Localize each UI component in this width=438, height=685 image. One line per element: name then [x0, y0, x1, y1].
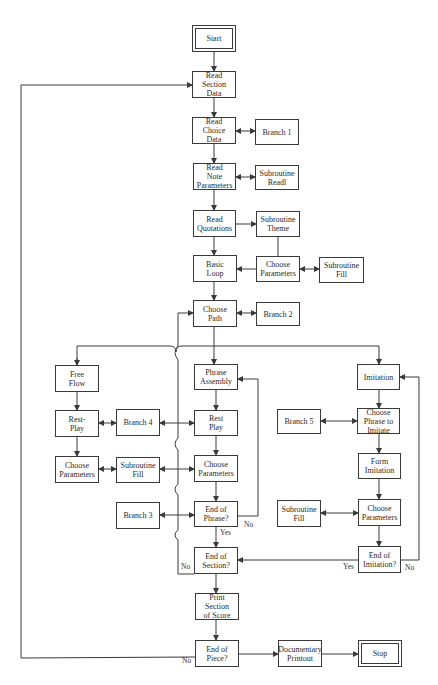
subroutine-fill-right-node: Subroutine Fill	[277, 500, 321, 527]
print-section-of-score-node: Print Section of Score	[195, 593, 239, 620]
end-of-phrase-no-label: No	[244, 521, 253, 529]
choose-parameters-top-node: Choose Parameters	[256, 256, 300, 282]
rest-play-center-node: Rest Play	[194, 410, 238, 436]
flowchart: Start Read Section Data Read Choice Data…	[0, 0, 438, 685]
end-of-section-no-label: No	[181, 563, 190, 571]
subroutine-theme-node: Subroutine Theme	[256, 211, 300, 237]
subroutine-readl-node: Subroutine Readl	[255, 165, 299, 190]
read-choice-data-node: Read Choice Data	[192, 117, 236, 144]
end-of-phrase-yes-label: Yes	[220, 529, 231, 537]
branch-1-node: Branch 1	[255, 119, 299, 145]
start-node: Start	[192, 25, 236, 52]
read-note-parameters-node: Read Note Parameters	[193, 163, 236, 190]
free-flow-node: Free Flow	[55, 365, 99, 392]
phrase-assembly-node: Phrase Assembly	[194, 364, 238, 390]
branch-4-node: Branch 4	[116, 409, 160, 436]
choose-phrase-to-imitate-node: Choose Phrase to Imitate	[357, 408, 400, 434]
end-of-imitation-no-label: No	[405, 564, 414, 572]
choose-path-node: Choose Path	[193, 300, 237, 327]
end-of-imitation-yes-label: Yes	[343, 563, 354, 571]
end-of-piece-node: End of Piece?	[195, 640, 239, 667]
subroutine-fill-left-node: Subroutine Fill	[116, 457, 160, 483]
form-imitation-node: Form Imitation	[358, 453, 401, 479]
branch-2-node: Branch 2	[256, 302, 300, 326]
end-of-piece-no-label: No	[182, 657, 191, 665]
read-quotations-node: Read Quotations	[193, 210, 236, 237]
basic-loop-node: Basic Loop	[193, 255, 237, 282]
choose-parameters-left-node: Choose Parameters	[55, 456, 99, 483]
read-section-data-node: Read Section Data	[192, 71, 236, 98]
imitation-node: Imitation	[357, 364, 400, 390]
branch-5-node: Branch 5	[277, 409, 321, 434]
documentary-printout-node: Documentary Printout	[278, 640, 322, 667]
choose-parameters-center-node: Choose Parameters	[194, 455, 238, 482]
start-label: Start	[195, 28, 233, 49]
branch-3-node: Branch 3	[116, 502, 160, 529]
subroutine-fill-top-node: Subroutine Fill	[319, 257, 364, 283]
connector-lines	[0, 0, 438, 685]
end-of-section-node: End of Section?	[194, 547, 238, 574]
stop-node: Stop	[358, 640, 402, 667]
end-of-phrase-node: End of Phrase?	[194, 501, 238, 527]
choose-parameters-right-node: Choose Parameters	[358, 499, 401, 526]
rest-play-left-node: Rest- Play	[55, 410, 99, 437]
stop-label: Stop	[361, 643, 399, 664]
end-of-imitation-node: End of Imitation?	[358, 546, 401, 573]
